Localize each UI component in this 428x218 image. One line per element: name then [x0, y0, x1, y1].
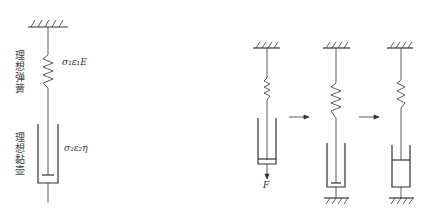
force-label: F	[263, 180, 269, 190]
ceiling-hatch-icon	[28, 20, 68, 27]
spring-icon	[43, 27, 53, 124]
arrow-right-icon	[289, 115, 309, 119]
ceiling-hatch-icon	[323, 42, 350, 48]
dashpot-formula: σ₂ε₂η	[64, 143, 88, 153]
force-arrow-icon	[265, 164, 269, 179]
spring-icon	[397, 48, 405, 160]
spring-icon	[331, 48, 341, 183]
dashpot-icon	[38, 124, 58, 203]
stage-3-model	[387, 42, 414, 204]
stage-1-model	[253, 42, 280, 179]
spring-formula: σ₁ε₁E	[62, 57, 87, 67]
floor-hatch-icon	[389, 198, 414, 204]
ceiling-hatch-icon	[253, 42, 280, 48]
spring-icon	[264, 48, 270, 160]
left-model	[28, 20, 68, 203]
stage-2-model	[323, 42, 350, 204]
dashpot-label: 理想黏壶	[14, 132, 26, 176]
maxwell-model-diagram: 理想弹簧 σ₁ε₁E 理想黏壶 σ₂ε₂η F	[0, 0, 428, 218]
diagram-drawing	[0, 0, 428, 218]
spring-label: 理想弹簧	[14, 50, 26, 94]
floor-hatch-icon	[324, 198, 349, 204]
ceiling-hatch-icon	[387, 42, 413, 48]
arrow-right-icon	[359, 115, 379, 119]
